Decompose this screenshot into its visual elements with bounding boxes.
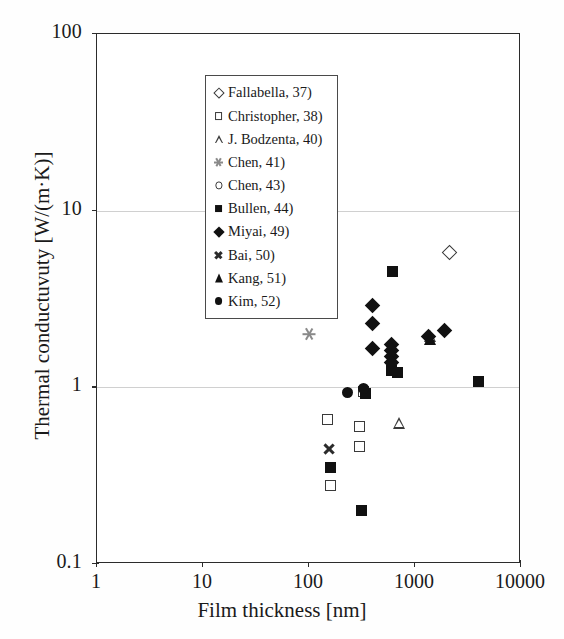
data-point — [367, 343, 378, 354]
marker-filled-square — [356, 505, 367, 516]
marker-open-diamond — [213, 87, 224, 98]
legend-marker-open-diamond — [211, 85, 226, 100]
x-axis-tick-mark — [520, 560, 521, 567]
data-point — [367, 300, 378, 311]
data-point — [358, 383, 369, 394]
marker-filled-circle — [215, 297, 223, 305]
data-point — [386, 357, 397, 368]
marker-open-circle — [215, 182, 222, 189]
marker-open-square — [354, 441, 365, 452]
y-axis-tick-label: 100 — [0, 20, 82, 43]
data-point — [325, 462, 336, 473]
data-point — [387, 266, 398, 277]
legend-marker-star — [211, 155, 226, 170]
data-point — [444, 247, 455, 258]
legend-marker-cross — [211, 247, 226, 262]
data-point — [393, 417, 405, 429]
data-point — [354, 421, 365, 432]
x-axis-tick-label: 1 — [91, 570, 101, 593]
legend-item: Kang, 51) — [211, 267, 333, 290]
legend-item: Fallabella, 37) — [211, 81, 333, 104]
marker-open-triangle — [215, 135, 223, 143]
marker-open-triangle — [393, 417, 405, 429]
marker-filled-square — [387, 266, 398, 277]
gridline-y — [97, 387, 519, 388]
data-point — [367, 318, 378, 329]
legend-label: Kang, 51) — [228, 271, 286, 286]
y-axis-tick-label: 1 — [0, 373, 82, 396]
data-point — [342, 387, 353, 398]
x-axis-tick-label: 100 — [293, 570, 323, 593]
data-point — [424, 332, 436, 345]
marker-filled-diamond — [365, 341, 381, 357]
data-point — [325, 480, 336, 491]
legend-label: Fallabella, 37) — [228, 85, 312, 100]
legend-label: Chen, 43) — [228, 178, 285, 193]
legend-item: Chen, 43) — [211, 174, 333, 197]
data-point — [322, 414, 333, 425]
legend-label: Bullen, 44) — [228, 201, 293, 216]
marker-filled-diamond — [365, 316, 381, 332]
legend-item: Miyai, 49) — [211, 220, 333, 243]
marker-filled-triangle — [215, 274, 223, 283]
scatter-chart-figure: Thermal conductuvuty [W/(m·K)] Film thic… — [0, 0, 564, 639]
plot-area: Fallabella, 37)Christopher, 38)J. Bodzen… — [96, 33, 520, 563]
marker-filled-square — [473, 376, 484, 387]
x-axis-tick-label: 10 — [192, 570, 212, 593]
data-point — [356, 505, 367, 516]
legend-marker-filled-square — [211, 201, 226, 216]
legend-label: Miyai, 49) — [228, 224, 289, 239]
legend-label: Christopher, 38) — [228, 109, 322, 124]
data-point — [473, 376, 484, 387]
data-point — [439, 325, 450, 336]
y-axis-title: Thermal conductuvuty [W/(m·K)] — [30, 86, 55, 506]
marker-filled-square — [215, 205, 223, 213]
legend-item: Bullen, 44) — [211, 197, 333, 220]
legend-item: Bai, 50) — [211, 243, 333, 266]
legend-item: Chen, 41) — [211, 151, 333, 174]
chart-legend: Fallabella, 37)Christopher, 38)J. Bodzen… — [205, 75, 338, 319]
marker-filled-triangle — [424, 332, 436, 345]
marker-filled-diamond — [384, 355, 400, 371]
marker-star — [214, 157, 223, 166]
x-axis-tick-label: 10000 — [495, 570, 545, 593]
data-point — [303, 328, 316, 341]
marker-open-square — [215, 112, 223, 120]
marker-cross — [323, 442, 336, 455]
marker-filled-circle — [358, 383, 369, 394]
marker-open-square — [354, 421, 365, 432]
legend-marker-filled-circle — [211, 294, 226, 309]
marker-filled-diamond — [365, 298, 381, 314]
marker-filled-circle — [342, 387, 353, 398]
marker-filled-square — [325, 462, 336, 473]
x-axis-tick-label: 1000 — [394, 570, 434, 593]
legend-marker-open-circle — [211, 178, 226, 193]
data-point — [354, 441, 365, 452]
marker-star — [303, 328, 316, 341]
legend-marker-open-square — [211, 108, 226, 123]
marker-filled-diamond — [213, 226, 224, 237]
x-axis-title: Film thickness [nm] — [0, 598, 564, 623]
legend-label: Kim, 52) — [228, 294, 280, 309]
legend-marker-filled-triangle — [211, 271, 226, 286]
legend-item: J. Bodzenta, 40) — [211, 127, 333, 150]
legend-label: J. Bodzenta, 40) — [228, 132, 322, 147]
legend-label: Bai, 50) — [228, 248, 275, 263]
marker-open-diamond — [441, 245, 457, 261]
y-axis-tick-label: 0.1 — [0, 550, 82, 573]
marker-cross — [214, 250, 223, 259]
legend-item: Kim, 52) — [211, 290, 333, 313]
marker-filled-diamond — [437, 323, 453, 339]
legend-label: Chen, 41) — [228, 155, 285, 170]
legend-item: Christopher, 38) — [211, 104, 333, 127]
y-axis-tick-label: 10 — [0, 197, 82, 220]
marker-open-square — [325, 480, 336, 491]
data-point — [323, 442, 336, 455]
legend-marker-filled-diamond — [211, 224, 226, 239]
marker-open-square — [322, 414, 333, 425]
legend-marker-open-triangle — [211, 131, 226, 146]
